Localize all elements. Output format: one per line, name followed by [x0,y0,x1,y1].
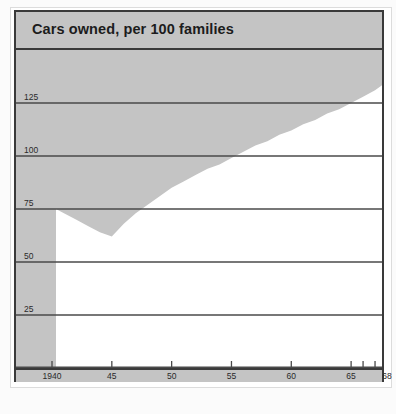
chart-panel: Cars owned, per 100 families 25507510012… [14,10,384,382]
x-tick-label: 68 [382,371,391,381]
plot-area: 255075100125 [16,50,382,368]
y-tick-label: 75 [24,198,33,208]
y-tick-label: 125 [24,92,38,102]
x-tick-label: 65 [346,371,355,381]
y-tick-label: 100 [24,145,38,155]
x-tick-label: 50 [167,371,176,381]
x-tick-label: 45 [107,371,116,381]
chart-figure: Cars owned, per 100 families 25507510012… [0,0,396,414]
x-tick-label: 60 [287,371,296,381]
page-title: Cars owned, per 100 families [32,21,234,37]
x-tick-label: 1940 [43,371,62,381]
x-tick-label: 55 [227,371,236,381]
chart-title-bar: Cars owned, per 100 families [16,12,382,50]
area-chart-svg [16,50,382,368]
y-tick-label: 25 [24,304,33,314]
x-axis-strip: 1940455055606568 [16,368,382,382]
y-tick-label: 50 [24,251,33,261]
